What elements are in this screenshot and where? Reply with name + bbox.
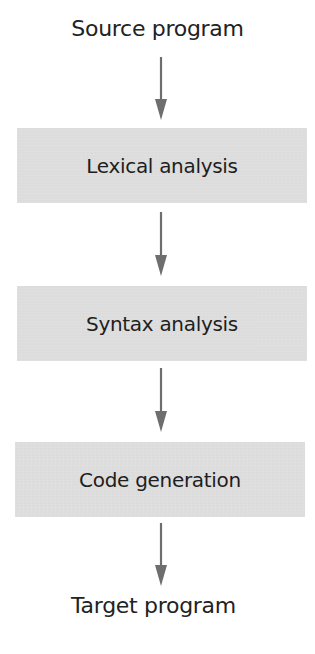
stage-label: Syntax analysis xyxy=(86,312,238,336)
stage-lexical-analysis: Lexical analysis xyxy=(17,128,307,203)
source-program-label: Source program xyxy=(0,16,315,42)
arrow-down-icon xyxy=(154,212,168,277)
stage-label: Lexical analysis xyxy=(86,154,237,178)
target-program-label: Target program xyxy=(0,593,311,619)
stage-code-generation: Code generation xyxy=(15,442,305,517)
arrow-down-icon xyxy=(154,523,168,587)
arrow-down-icon xyxy=(154,57,168,121)
arrow-down-icon xyxy=(154,368,168,433)
stage-label: Code generation xyxy=(79,468,241,492)
stage-syntax-analysis: Syntax analysis xyxy=(17,286,307,361)
